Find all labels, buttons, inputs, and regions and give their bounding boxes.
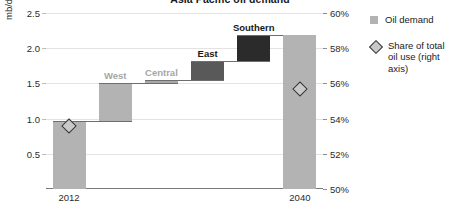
y-axis-tick xyxy=(42,119,46,120)
legend-item-share: Share of total oil use (right axis) xyxy=(370,40,455,75)
bar-segment-label: Southern xyxy=(233,22,275,33)
gridline xyxy=(46,83,323,84)
y2-axis-tick-label: 50% xyxy=(330,184,349,195)
bar-segment-label: West xyxy=(104,70,127,81)
gridline xyxy=(46,48,323,49)
y2-axis-tick xyxy=(323,119,327,120)
gridline xyxy=(46,119,323,120)
waterfall-connector xyxy=(99,83,178,84)
x-axis-tick-label: 2040 xyxy=(289,192,310,203)
y-axis-tick-label: 2.5 xyxy=(27,8,40,19)
y2-axis-tick-label: 60% xyxy=(330,8,349,19)
x-axis-line xyxy=(46,188,323,189)
x-axis-tick-label: 2012 xyxy=(59,192,80,203)
y-axis-tick-label: 1.5 xyxy=(27,78,40,89)
legend-square-icon xyxy=(370,16,378,24)
waterfall-bar xyxy=(237,35,270,61)
legend-diamond-icon xyxy=(369,39,383,53)
y-axis-tick xyxy=(42,13,46,14)
chart-legend: Oil demand Share of total oil use (right… xyxy=(370,14,455,88)
y-axis-tick-label: 2.0 xyxy=(27,43,40,54)
y2-axis-tick xyxy=(323,48,327,49)
legend-label: Share of total oil use (right axis) xyxy=(388,40,455,75)
y-axis-tick xyxy=(42,48,46,49)
y2-axis-tick-label: 54% xyxy=(330,113,349,124)
legend-label: Oil demand xyxy=(385,14,434,26)
y-axis-tick-label: 0.5 xyxy=(27,148,40,159)
y2-axis-tick-label: 58% xyxy=(330,43,349,54)
y-axis-tick xyxy=(42,83,46,84)
waterfall-connector xyxy=(191,61,270,62)
y-axis-title: mb/d xyxy=(3,0,14,20)
y2-axis-tick-label: 52% xyxy=(330,148,349,159)
waterfall-connector xyxy=(145,80,224,81)
gridline xyxy=(46,154,323,155)
bar-segment-label: Central xyxy=(145,67,178,78)
y2-axis-tick xyxy=(323,154,327,155)
y-axis-tick xyxy=(42,154,46,155)
y2-axis-tick-label: 56% xyxy=(330,78,349,89)
y2-axis-tick xyxy=(323,189,327,190)
waterfall-bar xyxy=(191,61,224,80)
legend-item-oil-demand: Oil demand xyxy=(370,14,455,26)
total-bar xyxy=(283,35,316,189)
y-axis-tick-label: 1.0 xyxy=(27,113,40,124)
y2-axis-tick xyxy=(323,83,327,84)
chart-root: Asia Pacific oil demand mb/d 0.51.01.52.… xyxy=(0,0,455,220)
waterfall-bar xyxy=(99,83,132,120)
y2-axis-tick xyxy=(323,13,327,14)
bar-segment-label: East xyxy=(198,48,218,59)
gridline xyxy=(46,13,323,14)
plot-area: 0.51.01.52.02.550%52%54%56%58%60%WestCen… xyxy=(46,13,323,189)
chart-title: Asia Pacific oil demand xyxy=(130,0,330,5)
